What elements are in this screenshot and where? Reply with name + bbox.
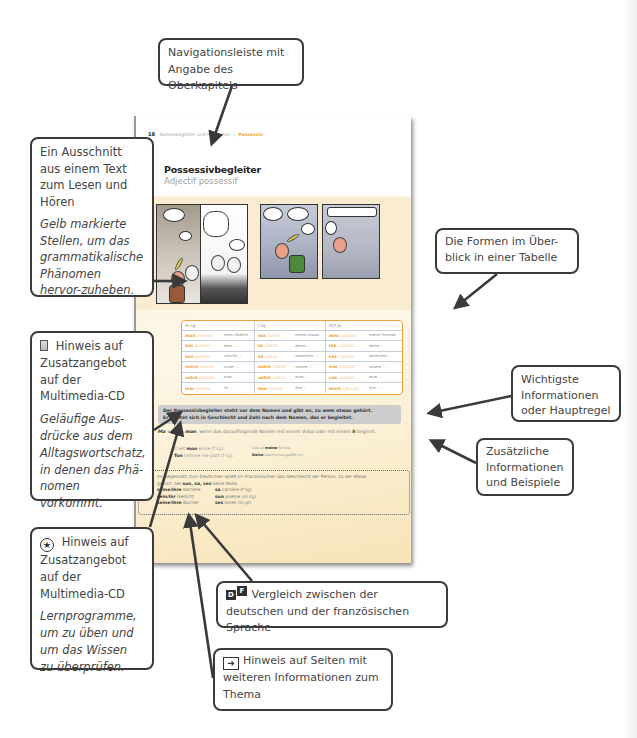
callout-text: Navigationsleiste mit Angabe des Oberkap… — [168, 46, 284, 92]
main-rule-line-1: Der Possessivbegleiter steht vor dem Nom… — [163, 407, 396, 414]
callout-italic-text: Geläufige Aus-drücke aus dem Alltagswort… — [40, 411, 144, 512]
callout-main-rule: Wichtigste Informationen oder Hauptregel — [511, 365, 621, 422]
comic-figure-head — [227, 257, 241, 273]
possessive-form: ma — [258, 333, 265, 338]
noun: classe — [269, 386, 282, 391]
possessive-form: meine — [265, 446, 277, 450]
callout-text-excerpt: Ein Ausschnitt aus einem Text zum Lesen … — [30, 137, 154, 297]
example-de: Deine Geschichte gefällt mir. — [252, 452, 304, 459]
table-row: son poème sein/ihr ... sa classe seine/i… — [182, 351, 402, 362]
translation: meine Klasse — [292, 330, 325, 341]
callout-text: Wichtigste Informationen oder Hauptregel — [521, 373, 611, 417]
noun: copains — [338, 354, 355, 359]
callout-text: Vergleich zwischen der deutschen und der… — [226, 588, 409, 634]
callout-text: Die Formen im Über-blick in einer Tabell… — [445, 235, 559, 264]
translation: unser ... — [221, 362, 254, 373]
star-circle-icon: ★ — [40, 538, 54, 552]
noun: copains — [338, 343, 355, 348]
callout-text: Hinweis auf Seiten mit weiteren Informat… — [223, 654, 379, 701]
table-header-row: m sg f sg m/f pl — [182, 321, 402, 330]
current-chapter: Possessiv — [238, 132, 263, 137]
de-noun: Karriere — [182, 487, 201, 492]
possessive-form: leur — [185, 386, 195, 391]
fr-noun: carrière (f sg) — [221, 487, 252, 492]
translation: euer ... — [221, 372, 254, 383]
comic-panel-3 — [260, 204, 318, 279]
text-segment: histoire me plaît (f sg). — [183, 453, 234, 458]
translation: dein ... — [221, 341, 254, 352]
comic-figure-body — [169, 285, 185, 303]
translation: eure ... — [292, 372, 325, 383]
noun: copains — [339, 364, 356, 369]
extra-info-text: Ma wird zu mon, wenn das darauffolgende … — [158, 428, 403, 435]
nav-separator: | — [233, 132, 235, 137]
possessive-form: mon — [186, 446, 197, 451]
callout-cd-expressions: Hinweis auf Zusatzangebot auf der Multim… — [30, 331, 154, 501]
speech-bubble — [229, 239, 245, 251]
example-row: Ton histoire me plaît (f sg). Deine Gesc… — [174, 452, 304, 459]
callout-cd-programs: ★ Hinweis auf Zusatzangebot auf der Mult… — [30, 527, 154, 670]
example-fr: Ton histoire me plaît (f sg). — [174, 452, 252, 459]
translation: unsere ... — [366, 362, 402, 373]
noun: poème — [196, 386, 211, 391]
callout-text: Zusätzliche Informationen und Beispiele — [486, 445, 563, 489]
text-segment: Schule. — [277, 446, 291, 450]
translation: seine/ihre ... — [366, 351, 402, 362]
callout-page-reference: ➜Hinweis auf Seiten mit weiteren Informa… — [213, 648, 393, 711]
noun: poème — [195, 354, 210, 359]
translation: ihre ... — [366, 383, 402, 394]
noun: poème — [199, 375, 214, 380]
possessive-forms-table: m sg f sg m/f pl mon poème mein Gedicht … — [182, 321, 402, 393]
possessive-form: ses — [329, 354, 337, 359]
translation: unsere ... — [292, 362, 325, 373]
possessive-form: votre — [258, 375, 271, 380]
forms-table-box: m sg f sg m/f pl mon poème mein Gedicht … — [181, 320, 403, 395]
callout-italic-text: Gelb markierte Stellen, um das grammatik… — [40, 216, 144, 299]
speech-bubble — [327, 207, 377, 217]
translation: ihr ... — [221, 383, 254, 394]
navigation-bar: 18 Nomenbegleiter und Pronomen | Possess… — [148, 131, 263, 137]
comic-panel-1 — [156, 204, 201, 304]
speech-bubble — [203, 211, 229, 237]
callout-title: Ein Ausschnitt aus einem Text zum Lesen … — [40, 145, 127, 209]
comic-figure-head — [333, 237, 347, 253]
example-de: Das ist meine Schule. — [252, 445, 291, 452]
noun: copains — [340, 333, 357, 338]
noun: classe — [264, 343, 277, 348]
translation: eure ... — [366, 372, 402, 383]
page-subtitle: Adjectif possessif — [164, 176, 261, 186]
parent-chapter: Nomenbegleiter und Pronomen — [159, 132, 229, 137]
speech-bubble — [179, 231, 192, 241]
examples-list: C'est mon école (f sg). Das ist meine Sc… — [174, 445, 304, 459]
possessive-form: notre — [258, 364, 271, 369]
text-segment: Geschichte gefällt mir. — [263, 453, 304, 457]
possessive-form: nos — [329, 364, 338, 369]
text-segment: keine Rolle. — [211, 481, 238, 486]
noun: copains — [339, 375, 356, 380]
de-fr-contrast-box: Im Gegensatz zum Deutschen spielt im Fra… — [138, 470, 410, 515]
comic-panel-4 — [322, 204, 380, 279]
translation: ihre ... — [292, 383, 325, 394]
noun: classe — [265, 354, 278, 359]
page-number: 18 — [148, 131, 155, 137]
fr-possessive: son — [215, 494, 224, 499]
possessive-form: Deine — [252, 453, 263, 457]
speech-bubble — [301, 223, 315, 235]
noun: classe — [272, 375, 285, 380]
possessive-form: mes — [329, 333, 339, 338]
title-block: Possessivbegleiter Adjectif possessif — [164, 164, 261, 186]
table-row: votre poème euer ... votre classe eure .… — [182, 372, 402, 383]
noun: classe — [267, 333, 280, 338]
text-segment: wird zu — [166, 429, 185, 434]
text-segment: gehört, bei — [157, 481, 182, 486]
possessive-form: votre — [185, 375, 198, 380]
column-header: m/f pl — [325, 321, 402, 330]
main-rule-box: Der Possessivbegleiter steht vor dem Nom… — [158, 405, 401, 424]
noun: copains — [342, 386, 359, 391]
text-segment: , wenn das darauffolgende Nomen mit eine… — [196, 429, 352, 434]
comic-figure-head — [211, 255, 225, 271]
possessive-form: ta — [258, 343, 263, 348]
possessive-form: son — [185, 354, 194, 359]
table-row: leur poème ihr ... leur classe ihre ... … — [182, 383, 402, 394]
translation: deine ... — [292, 341, 325, 352]
